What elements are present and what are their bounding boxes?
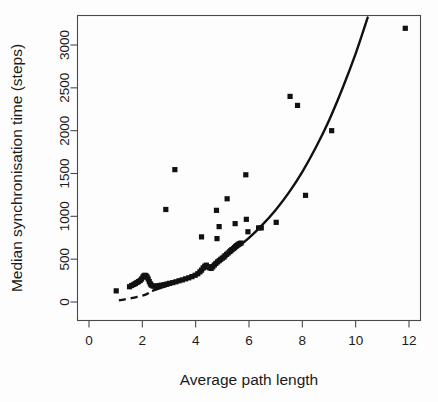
data-point-marker (295, 103, 300, 108)
data-point-marker (172, 167, 177, 172)
y-tick-label: 2000 (57, 116, 72, 146)
data-point-marker (225, 196, 230, 201)
x-tick-label: 8 (299, 333, 307, 348)
data-point-marker (274, 220, 279, 225)
data-point-marker (114, 288, 119, 293)
data-point-marker (233, 221, 238, 226)
scatter-plot: 024681012 050010001500200025003000 Avera… (0, 0, 438, 402)
data-point-marker (163, 207, 168, 212)
data-point-marker (287, 94, 292, 99)
data-point-marker (214, 236, 219, 241)
data-point-marker (244, 217, 249, 222)
x-tick-label: 0 (85, 333, 93, 348)
data-point-marker (303, 193, 308, 198)
x-tick-label: 10 (348, 333, 363, 348)
x-axis-title: Average path length (180, 371, 318, 388)
x-tick-label: 2 (139, 333, 147, 348)
data-point-marker (199, 234, 204, 239)
y-tick-label: 0 (57, 298, 72, 306)
data-point-marker (238, 240, 243, 245)
y-tick-label: 500 (57, 248, 72, 271)
x-tick-label: 12 (401, 333, 416, 348)
x-tick-label: 4 (192, 333, 200, 348)
y-tick-label: 1000 (57, 201, 72, 231)
chart-figure: 024681012 050010001500200025003000 Avera… (0, 0, 438, 402)
y-axis-title: Median synchronisation time (steps) (8, 44, 25, 292)
y-tick-label: 2500 (57, 73, 72, 103)
data-point-marker (256, 225, 261, 230)
data-point-marker (217, 224, 222, 229)
data-point-marker (243, 172, 248, 177)
data-point-marker (214, 208, 219, 213)
y-tick-label: 1500 (57, 158, 72, 188)
y-tick-label: 3000 (57, 30, 72, 60)
data-point-marker (245, 229, 250, 234)
data-point-marker (329, 128, 334, 133)
data-point-marker (403, 26, 408, 31)
x-tick-label: 6 (245, 333, 253, 348)
